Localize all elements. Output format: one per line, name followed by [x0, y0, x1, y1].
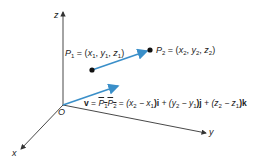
origin-label: O: [58, 108, 65, 117]
z-axis-label: z: [54, 11, 59, 20]
p1-label: P1 = (x1, y1, z1): [65, 49, 124, 58]
x-axis: [21, 105, 63, 149]
p2-label: P2 = (x2, y2, z2): [156, 46, 215, 55]
y-axis: [63, 105, 206, 133]
y-axis-label: y: [209, 128, 214, 137]
diagram-canvas: [0, 0, 278, 165]
point-p1: [89, 67, 94, 72]
vector-equation: v = P1P2 = (x2 − x1)i + (y2 − y1)j + (z2…: [84, 99, 247, 108]
x-axis-label: x: [12, 149, 17, 158]
point-p2: [147, 47, 152, 52]
